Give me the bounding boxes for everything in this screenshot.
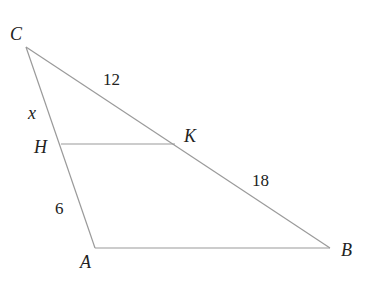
measure-HA: 6 [55,199,64,218]
vertex-label-H: H [33,137,48,157]
vertex-label-A: A [79,252,92,272]
measure-CK: 12 [103,70,120,89]
diagram-canvas: C H K A B 12 18 x 6 [0,0,372,281]
measure-CH: x [27,103,36,123]
vertex-label-B: B [341,240,352,260]
vertex-label-K: K [183,126,197,146]
vertex-label-C: C [10,24,23,44]
triangle-diagram: C H K A B 12 18 x 6 [0,0,372,281]
measure-KB: 18 [252,171,269,190]
segment-CB [26,47,330,248]
